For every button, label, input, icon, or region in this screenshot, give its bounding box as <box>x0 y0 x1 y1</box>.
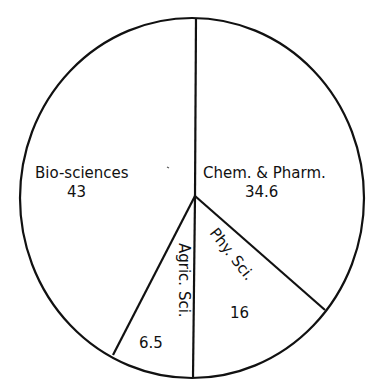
slice-value-bio: 43 <box>67 183 86 201</box>
slice-label-chem: Chem. & Pharm. <box>203 164 326 182</box>
pie-chart: Bio-sciences 43 Chem. & Pharm. 34.6 Phy.… <box>0 0 380 391</box>
slice-label-bio: Bio-sciences <box>35 164 129 182</box>
slice-value-chem: 34.6 <box>245 183 278 201</box>
divider-top <box>195 18 196 196</box>
slice-label-agric: Agric. Sci. <box>175 243 193 318</box>
slice-value-agric: 6.5 <box>139 334 163 352</box>
slice-value-phy: 16 <box>230 304 249 322</box>
